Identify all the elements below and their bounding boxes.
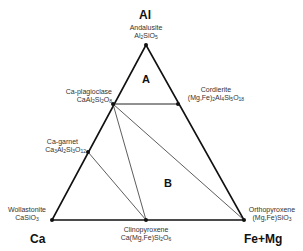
mineral-formula: CaAl2Si2O8 — [48, 96, 112, 105]
mineral-name: Wollastonite — [2, 206, 52, 214]
label-clinopyroxene: Clinopyroxene Ca(Mg,Fe)Si2O6 — [112, 226, 180, 243]
vertex-label-al: Al — [139, 8, 151, 22]
mineral-formula: Ca(Mg,Fe)Si2O6 — [112, 234, 180, 243]
label-orthopyroxene: Orthopyroxene (Mg,Fe)SiO3 — [242, 206, 302, 223]
point-clinopyroxene — [144, 218, 148, 222]
tie-line-plagioclase-clinopyroxene — [113, 104, 146, 220]
point-andalusite — [144, 43, 148, 47]
mineral-name: Ca-garnet — [22, 138, 86, 146]
tie-line-plagioclase-orthopyroxene — [113, 104, 244, 220]
mineral-formula: CaSiO3 — [2, 214, 52, 223]
field-label-b: B — [164, 177, 172, 189]
vertex-label-ca: Ca — [30, 232, 45, 246]
triangle-outline — [52, 45, 244, 220]
label-andalusite: Andalusite Al2SiO5 — [116, 24, 176, 41]
vertex-label-fe-mg: Fe+Mg — [244, 232, 282, 246]
field-label-a: A — [142, 73, 150, 85]
tie-line-garnet-clinopyroxene — [88, 152, 146, 220]
label-ca-garnet: Ca-garnet Ca3Al2Si3O12 — [22, 138, 86, 155]
mineral-name: Ca-plagioclase — [48, 88, 112, 96]
label-cordierite: Cordierite (Mg,Fe)2Al4Si5O18 — [180, 86, 252, 103]
mineral-formula: (Mg,Fe)SiO3 — [242, 214, 302, 223]
label-ca-plagioclase: Ca-plagioclase CaAl2Si2O8 — [48, 88, 112, 105]
point-ca-garnet — [86, 150, 90, 154]
mineral-name: Andalusite — [116, 24, 176, 32]
mineral-formula: Ca3Al2Si3O12 — [22, 146, 86, 155]
mineral-name: Cordierite — [180, 86, 252, 94]
mineral-formula: Al2SiO5 — [116, 32, 176, 41]
mineral-formula: (Mg,Fe)2Al4Si5O18 — [180, 94, 252, 103]
mineral-name: Orthopyroxene — [242, 206, 302, 214]
label-wollastonite: Wollastonite CaSiO3 — [2, 206, 52, 223]
mineral-name: Clinopyroxene — [112, 226, 180, 234]
